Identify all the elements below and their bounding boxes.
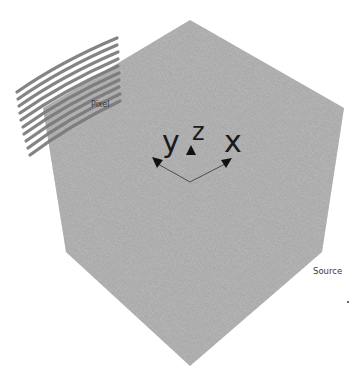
- source-label: Source: [313, 266, 342, 276]
- x-axis-label: x: [224, 124, 242, 159]
- pixel-label: Pixel: [91, 100, 110, 109]
- z-axis-label: z: [192, 118, 205, 146]
- diagram-canvas: Pixel Source y z x: [0, 0, 363, 380]
- source-marker: [347, 301, 349, 303]
- y-axis-label: y: [162, 124, 180, 159]
